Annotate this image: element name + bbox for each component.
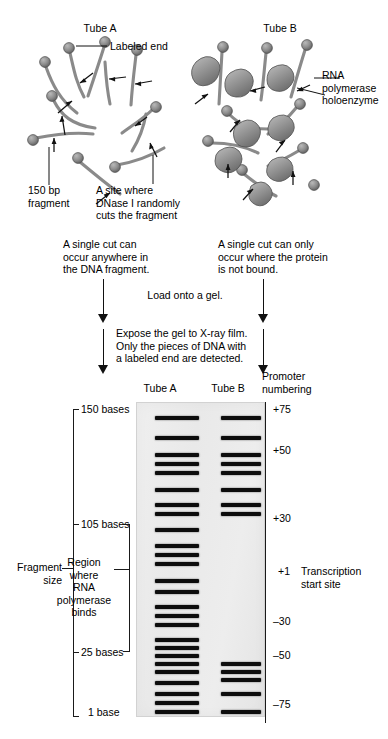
gel-band-a-12	[155, 562, 199, 566]
gel-band-b-1	[221, 416, 261, 420]
gel-band-a-1	[155, 416, 199, 420]
gel-band-a-3	[155, 453, 199, 457]
gel-band-a-18	[155, 638, 199, 642]
gel-band-a-15	[155, 605, 199, 609]
gel-band-a-24	[155, 692, 199, 696]
gel-band-b-2	[221, 436, 261, 440]
gel-band-a-11	[155, 553, 199, 557]
rna-polymerase-callout: RNA polymerase holoenzyme	[322, 69, 379, 107]
gel-band-a-10	[155, 544, 199, 548]
gel-band-b-13	[221, 710, 261, 714]
fragment-size-axis: Fragment size 150 bases 105 bases 25 bas…	[0, 0, 136, 330]
gel-band-a-19	[155, 646, 199, 650]
gel-band-a-5	[155, 471, 199, 475]
gel-band-b-6	[221, 488, 261, 492]
footprint-region-label: Region where RNA polymerase binds	[40, 556, 128, 619]
promoter-tick-minus-75: –75	[273, 698, 291, 711]
gel-band-b-3	[221, 453, 261, 457]
flow-note-right: A single cut can only occur where the pr…	[218, 238, 328, 276]
gel-band-a-7	[155, 503, 199, 507]
gel-band-a-14	[155, 590, 199, 594]
promoter-tick-plus-75: +75	[273, 403, 291, 416]
tube-b-title: Tube B	[240, 22, 320, 35]
promoter-tick-minus-50: –50	[273, 649, 291, 662]
gel-band-b-7	[221, 503, 261, 507]
fragment-size-bracket-cap-top	[73, 409, 79, 410]
gel-band-a-13	[155, 579, 199, 583]
axis-tick-1-base: 1 base	[88, 706, 120, 719]
gel-header-tube-b: Tube B	[200, 382, 256, 395]
gel-header-tube-a: Tube A	[130, 382, 190, 395]
footprint-bracket-stem	[129, 524, 130, 652]
gel-band-b-9	[221, 662, 261, 666]
gel-band-b-8	[221, 512, 261, 516]
gel-band-a-17	[155, 623, 199, 627]
footprint-bracket-cap-bottom	[123, 651, 130, 652]
axis-tick-150-bases: 150 bases	[81, 403, 129, 416]
promoter-tick-plus-30: +30	[273, 512, 291, 525]
flow-arrow-left-2	[103, 329, 104, 367]
tube-b-complexes	[192, 40, 320, 206]
gel-header-promoter-numbering: Promoter numbering	[262, 370, 312, 395]
gel-band-a-9	[155, 528, 199, 532]
fragment-size-bracket-cap-bottom	[73, 716, 79, 717]
flow-arrow-right-1-head	[258, 314, 268, 323]
gel-band-a-8	[155, 512, 199, 516]
gel-band-a-21	[155, 662, 199, 666]
gel-band-a-2	[155, 436, 199, 440]
gel-image	[136, 402, 265, 717]
flow-arrow-left-2-head	[98, 365, 108, 374]
footprint-bracket-cap-top	[123, 524, 130, 525]
gel-band-b-11	[221, 678, 261, 682]
gel-band-a-25	[155, 701, 199, 705]
promoter-axis-line	[265, 402, 266, 723]
promoter-tick-minus-30: –30	[273, 615, 291, 628]
gel-band-b-4	[221, 462, 261, 466]
gel-band-b-12	[221, 692, 261, 696]
gel-band-a-22	[155, 670, 199, 674]
gel-band-a-23	[155, 681, 199, 685]
gel-band-a-16	[155, 614, 199, 618]
fragment-size-bracket-tick-25	[73, 652, 79, 653]
gel-band-a-4	[155, 462, 199, 466]
fragment-size-bracket-tick-105	[73, 524, 79, 525]
promoter-tick-plus-1: +1	[278, 565, 290, 578]
flow-step-load-gel: Load onto a gel.	[120, 289, 250, 302]
gel-band-a-26	[155, 710, 199, 714]
promoter-numbering-axis: +75 +50 +30 +1 –30 –50 –75 Transcription…	[265, 395, 388, 725]
gel-band-b-5	[221, 471, 261, 475]
flow-step-expose-film: Expose the gel to X-ray film. Only the p…	[116, 327, 247, 365]
gel-band-a-20	[155, 654, 199, 658]
gel-band-a-6	[155, 488, 199, 492]
promoter-tick-plus-50: +50	[273, 444, 291, 457]
flow-arrow-right-2	[263, 329, 264, 367]
transcription-start-site-label: Transcription start site	[301, 565, 361, 590]
gel-band-b-10	[221, 670, 261, 674]
flow-arrow-right-1	[263, 279, 264, 316]
